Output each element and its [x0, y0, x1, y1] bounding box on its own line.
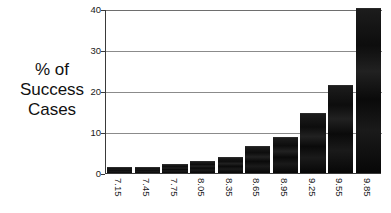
y-tick-mark-0: [101, 174, 105, 175]
bars-group: [106, 9, 382, 173]
plot-area: [105, 10, 381, 174]
y-tick-label-40: 40: [81, 5, 101, 15]
y-tick-mark-30: [101, 51, 105, 52]
bar: [135, 167, 160, 173]
y-tick-label-0: 0: [81, 169, 101, 179]
x-tick-label: 7.75: [169, 178, 179, 197]
bar: [107, 167, 132, 173]
x-tick-label: 9.55: [335, 178, 345, 197]
bar: [273, 137, 298, 173]
y-tick-mark-40: [101, 10, 105, 11]
x-tick-label: 8.65: [252, 178, 262, 197]
bar: [300, 113, 325, 173]
bar: [356, 8, 381, 173]
x-tick-label: 9.25: [307, 178, 317, 197]
y-axis-title-line-1: % of: [4, 60, 100, 80]
x-tick-label: 7.15: [114, 178, 124, 197]
x-tick-label: 9.85: [362, 178, 372, 197]
y-tick-label-20: 20: [81, 87, 101, 97]
bar: [245, 146, 270, 173]
x-tick-label: 8.35: [224, 178, 234, 197]
y-tick-label-10: 10: [81, 128, 101, 138]
x-tick-label: 8.95: [279, 178, 289, 197]
x-tick-label: 7.45: [141, 178, 151, 197]
y-tick-label-30: 30: [81, 46, 101, 56]
bar: [190, 161, 215, 173]
bar: [218, 157, 243, 173]
y-tick-mark-20: [101, 92, 105, 93]
x-axis-ticks: 7.157.457.758.058.358.658.959.259.559.85: [105, 178, 381, 213]
y-axis-title-line-3: Cases: [4, 100, 100, 120]
bar: [328, 85, 353, 173]
bar: [162, 164, 187, 173]
bar-chart: % of Success Cases 010203040 7.157.457.7…: [0, 0, 391, 213]
x-tick-label: 8.05: [197, 178, 207, 197]
y-tick-mark-10: [101, 133, 105, 134]
